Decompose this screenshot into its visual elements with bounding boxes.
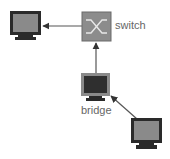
bridge-label: bridge: [81, 104, 112, 116]
computer-icon: [131, 118, 162, 149]
bridge-computer-icon: [81, 73, 110, 101]
computer-icon: [10, 11, 41, 40]
edge-pc-to-bridge: [111, 96, 137, 119]
switch-label: switch: [115, 19, 146, 31]
switch-icon: [82, 12, 111, 41]
